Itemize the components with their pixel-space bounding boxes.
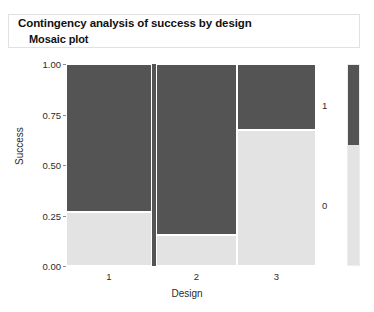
legend-swatch-0[interactable] <box>348 145 359 265</box>
mosaic-tile[interactable] <box>237 64 316 130</box>
plot-subtitle: Mosaic plot <box>29 33 88 45</box>
y-axis-title: Success <box>14 127 25 165</box>
legend-swatch-1[interactable] <box>348 65 359 145</box>
legend-color-strip <box>347 64 360 266</box>
mosaic-tile[interactable] <box>66 64 152 212</box>
mosaic-tile[interactable] <box>156 235 237 266</box>
y-axis-tick-label: 0.50 <box>27 160 61 171</box>
mosaic-tile[interactable] <box>156 64 237 235</box>
x-axis-tick-label: 3 <box>262 271 292 282</box>
mosaic-plot-canvas <box>66 64 316 266</box>
y-axis-tick-label: 0.25 <box>27 210 61 221</box>
y-axis-tick-mark <box>63 266 66 267</box>
page-title: Contingency analysis of success by desig… <box>18 17 252 29</box>
y-axis-tick-label: 0.75 <box>27 109 61 120</box>
legend-label: 0 <box>322 200 327 211</box>
x-axis-tick-label: 1 <box>94 271 124 282</box>
analysis-title-box: Contingency analysis of success by desig… <box>8 14 360 48</box>
mosaic-plot-page: Contingency analysis of success by desig… <box>0 0 374 312</box>
x-axis-title: Design <box>0 288 374 299</box>
y-axis-tick-label: 1.00 <box>27 59 61 70</box>
mosaic-tile[interactable] <box>237 130 316 266</box>
mosaic-tile[interactable] <box>66 212 152 266</box>
x-axis-tick-label: 2 <box>182 271 212 282</box>
y-axis-tick-label: 0.00 <box>27 261 61 272</box>
legend-label: 1 <box>322 100 327 111</box>
